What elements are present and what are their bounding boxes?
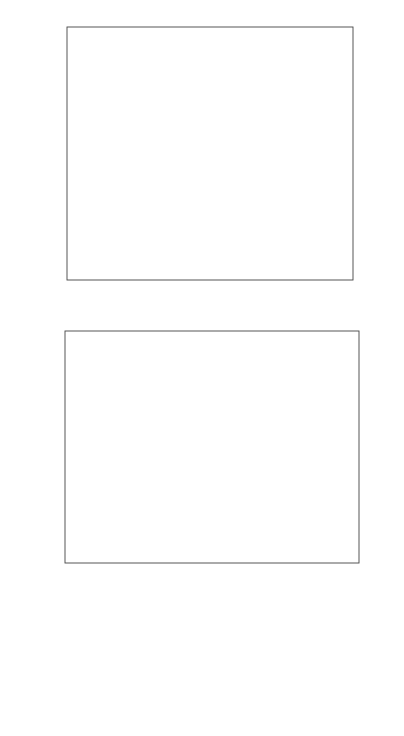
plate-height-chart — [0, 0, 404, 320]
plot-area-frame — [65, 331, 359, 563]
data-tables — [0, 605, 404, 736]
plot-area-frame — [67, 27, 353, 280]
plates-per-second-chart — [0, 320, 404, 605]
